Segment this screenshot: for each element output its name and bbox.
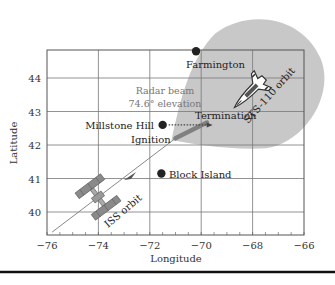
site-dot-farmington [192, 47, 200, 55]
radar-beam-label-line1: Radar beam [136, 85, 195, 96]
ignition-label: Ignition [131, 134, 171, 145]
y-tick-label: 41 [28, 174, 41, 185]
y-tick-label: 44 [28, 73, 41, 84]
y-tick-label: 42 [28, 140, 41, 151]
y-tick-label: 40 [28, 207, 41, 218]
x-tick-label: −74 [88, 240, 109, 251]
x-axis-title: Longitude [150, 253, 202, 264]
millstone-hill-label: Millstone Hill [85, 120, 154, 131]
block-island-label: Block Island [169, 169, 232, 180]
x-tick-label: −72 [139, 240, 160, 251]
x-tick-label: −66 [293, 240, 314, 251]
x-tick-label: −76 [36, 240, 57, 251]
chart: −76−74−72−70−68−664041424344 Longitude L… [0, 0, 335, 285]
iss-orbit-label: ISS orbit [102, 192, 144, 229]
y-tick-label: 43 [28, 107, 41, 118]
farmington-label: Farmington [186, 59, 246, 70]
x-tick-label: −68 [242, 240, 263, 251]
site-dot-block-island [157, 169, 165, 177]
x-tick-label: −70 [191, 240, 212, 251]
radar-beam-label-line2: 74.6° elevation [129, 98, 202, 109]
site-dot-millstone-hill [158, 121, 166, 129]
y-axis-title: Latitude [8, 122, 19, 165]
